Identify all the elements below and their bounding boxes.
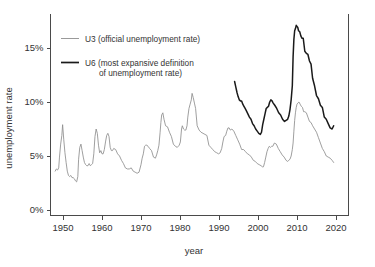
y-axis-title: unemployment rate xyxy=(3,87,14,168)
chart-canvas: 0%5%10%15% 19501960197019801990200020102… xyxy=(0,0,375,267)
x-tick-label: 1980 xyxy=(169,222,190,233)
series-line-u3 xyxy=(55,93,333,182)
x-tick-label: 2010 xyxy=(286,222,307,233)
x-tick-label: 1960 xyxy=(91,222,112,233)
unemployment-rate-chart: 0%5%10%15% 19501960197019801990200020102… xyxy=(0,0,375,267)
y-tick-label: 5% xyxy=(30,150,44,161)
legend-label-u6-line1: U6 (most expansive definition xyxy=(85,58,194,68)
x-tick-label: 2000 xyxy=(247,222,268,233)
series-group xyxy=(55,25,333,182)
x-axis-title: year xyxy=(185,245,203,256)
y-tick-label: 15% xyxy=(24,42,44,53)
y-tick-label: 10% xyxy=(24,96,44,107)
series-line-u6 xyxy=(235,25,334,134)
chart-legend: U3 (official unemployment rate) U6 (most… xyxy=(61,34,200,78)
y-tick-label: 0% xyxy=(30,204,44,215)
x-axis-ticks: 19501960197019801990200020102020 xyxy=(52,216,346,233)
legend-label-u6-line2: of unemployment rate) xyxy=(99,68,182,78)
x-tick-label: 1990 xyxy=(208,222,229,233)
x-tick-label: 1970 xyxy=(130,222,151,233)
x-tick-label: 1950 xyxy=(52,222,73,233)
x-tick-label: 2020 xyxy=(325,222,346,233)
y-axis-ticks: 0%5%10%15% xyxy=(24,42,50,215)
legend-label-u3: U3 (official unemployment rate) xyxy=(85,34,200,44)
